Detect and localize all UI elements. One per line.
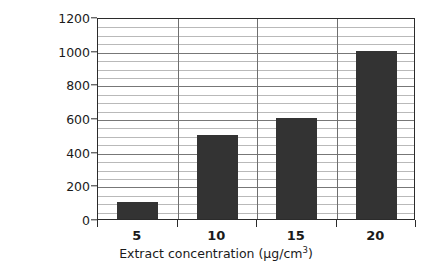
plot-area xyxy=(97,18,415,220)
y-axis-tick-label: 200 xyxy=(66,179,90,194)
y-axis-tick-label: 0 xyxy=(82,213,90,228)
x-axis-title-main: Extract concentration (μg/cm xyxy=(119,246,302,261)
x-axis-tick-label: 10 xyxy=(207,228,225,243)
x-axis-tick-mark xyxy=(415,220,416,227)
x-axis-tick-mark xyxy=(97,220,98,227)
x-axis-tick-mark xyxy=(336,220,337,227)
gridline-minor xyxy=(98,36,414,37)
x-axis-tick-mark xyxy=(256,220,257,227)
vertical-gridline xyxy=(178,19,179,219)
x-axis-tick-label: 5 xyxy=(132,228,141,243)
bar xyxy=(197,135,238,219)
x-axis-title-tail: ) xyxy=(308,246,313,261)
gridline-minor xyxy=(98,44,414,45)
y-axis-tick-label: 1200 xyxy=(58,11,90,26)
x-axis-tick-mark xyxy=(177,220,178,227)
x-axis-tick-label: 20 xyxy=(366,228,384,243)
bar xyxy=(117,202,158,219)
bar-chart-figure: Increase in cells undergoing apoptosis (… xyxy=(0,0,432,267)
vertical-gridline xyxy=(337,19,338,219)
y-axis-tick-labels: 020040060080010001200 xyxy=(52,18,90,220)
vertical-gridline xyxy=(257,19,258,219)
bar xyxy=(276,118,317,219)
x-axis-tick-label: 15 xyxy=(287,228,305,243)
y-axis-tick-label: 600 xyxy=(66,112,90,127)
x-axis-title: Extract concentration (μg/cm3) xyxy=(0,246,432,261)
y-axis-tick-label: 1000 xyxy=(58,44,90,59)
gridline-minor xyxy=(98,27,414,28)
y-axis-tick-label: 800 xyxy=(66,78,90,93)
bar xyxy=(356,51,397,219)
y-axis-tick-label: 400 xyxy=(66,145,90,160)
